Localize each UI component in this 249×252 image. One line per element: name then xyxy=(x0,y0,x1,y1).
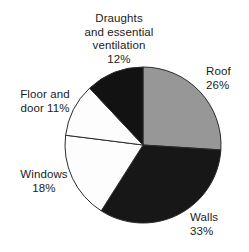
slice-label-roof-value: 26% xyxy=(206,79,248,93)
slice-label-walls: Walls 33% xyxy=(190,211,246,238)
slice-label-draughts-line3: ventilation xyxy=(60,39,178,53)
slice-label-floor-line2: door 11% xyxy=(4,102,86,116)
slice-label-windows-value: 18% xyxy=(8,182,80,196)
slice-label-walls-name: Walls xyxy=(190,211,246,225)
slice-label-draughts-line2: and essential xyxy=(60,26,178,40)
slice-label-roof-name: Roof xyxy=(206,65,248,79)
slice-label-draughts-value: 12% xyxy=(60,53,178,67)
pie-slice-group xyxy=(65,67,221,223)
pie-chart: Draughts and essential ventilation 12% R… xyxy=(0,0,249,252)
slice-label-draughts-line1: Draughts xyxy=(60,12,178,26)
slice-label-walls-value: 33% xyxy=(190,225,246,239)
slice-label-windows: Windows 18% xyxy=(8,168,80,195)
slice-label-floor-and-door: Floor and door 11% xyxy=(4,88,86,115)
slice-label-draughts: Draughts and essential ventilation 12% xyxy=(60,12,178,66)
slice-label-windows-name: Windows xyxy=(8,168,80,182)
slice-label-roof: Roof 26% xyxy=(206,65,248,92)
slice-label-floor-line1: Floor and xyxy=(4,88,86,102)
